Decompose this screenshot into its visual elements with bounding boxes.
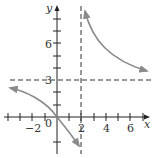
y-axis-arrow-icon [55, 5, 60, 11]
x-tick-label-neg2: −2 [25, 122, 41, 135]
x-axis-label: x [144, 118, 151, 131]
x-tick-label-4: 4 [103, 122, 110, 135]
right-branch-curve [85, 11, 147, 71]
y-tick-label-6: 6 [45, 38, 52, 51]
y-axis-label: y [45, 2, 53, 15]
x-tick-label-6: 6 [127, 122, 134, 135]
x-axis [4, 113, 150, 121]
function-graph: y x 0 −2 2 4 6 3 6 [0, 0, 152, 158]
origin-label: 0 [45, 117, 52, 130]
y-tick-label-3: 3 [45, 74, 52, 87]
x-tick-label-2: 2 [78, 122, 85, 135]
